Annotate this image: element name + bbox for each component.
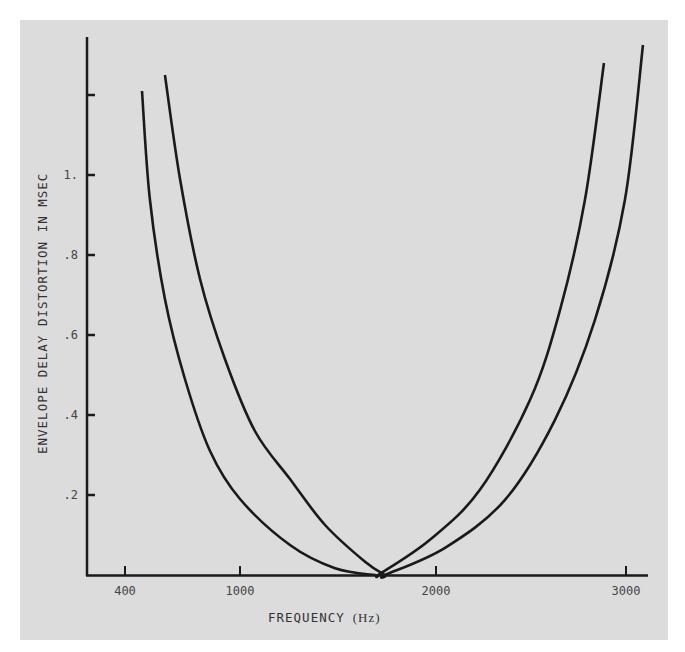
y-tick-label: 1. — [64, 168, 78, 182]
x-tick-label: 400 — [114, 584, 136, 598]
x-axis-unit: (Hz) — [353, 610, 381, 625]
chart-svg: .2.4.6.81. 400100020003000 ENVELOPE DELA… — [0, 0, 685, 652]
x-axis-title: FREQUENCY(Hz) — [268, 610, 381, 625]
x-tick-label: 2000 — [422, 584, 451, 598]
curves — [142, 45, 643, 578]
y-ticks: .2.4.6.81. — [64, 95, 95, 502]
y-axis-title: ENVELOPE DELAY DISTORTION IN MSEC — [35, 173, 50, 454]
y-tick-label: .4 — [64, 408, 78, 422]
x-axis-title-label: FREQUENCY — [268, 610, 345, 625]
y-tick-label: .2 — [64, 488, 78, 502]
curve-b-line — [165, 45, 643, 578]
y-tick-label: .6 — [64, 328, 78, 342]
y-tick-label: .8 — [64, 248, 78, 262]
x-tick-label: 1000 — [226, 584, 255, 598]
x-tick-label: 3000 — [612, 584, 641, 598]
